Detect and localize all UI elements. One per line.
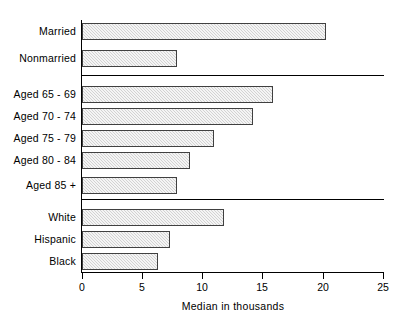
x-tick-mark — [262, 273, 263, 279]
bar — [82, 209, 224, 226]
x-tick-label: 10 — [182, 281, 222, 294]
bar — [82, 177, 177, 194]
x-tick-mark — [323, 273, 324, 279]
bar-label: Aged 85 + — [0, 177, 76, 194]
bar-row: Nonmarried — [82, 50, 383, 67]
x-tick-label: 25 — [363, 281, 403, 294]
bar — [82, 108, 253, 125]
bar — [82, 231, 170, 248]
bar — [82, 253, 158, 270]
bar — [82, 50, 177, 67]
x-tick-mark — [383, 273, 384, 279]
x-axis-line — [82, 272, 384, 273]
bar-chart: MarriedNonmarriedAged 65 - 69Aged 70 - 7… — [0, 0, 418, 322]
x-tick-label: 5 — [122, 281, 162, 294]
bar — [82, 86, 273, 103]
x-tick-label: 15 — [242, 281, 282, 294]
bar-row: Aged 80 - 84 — [82, 152, 383, 169]
bar-label: Aged 75 - 79 — [0, 130, 76, 147]
x-tick-mark — [142, 273, 143, 279]
bar-row: White — [82, 209, 383, 226]
bar-row: Married — [82, 23, 383, 40]
bar — [82, 152, 190, 169]
bar-label: White — [0, 209, 76, 226]
bar-label: Nonmarried — [0, 50, 76, 67]
bar-row: Aged 65 - 69 — [82, 86, 383, 103]
bar-label: Married — [0, 23, 76, 40]
group-separator-line — [82, 75, 384, 76]
plot-area: MarriedNonmarriedAged 65 - 69Aged 70 - 7… — [82, 20, 383, 272]
bar-row: Black — [82, 253, 383, 270]
bar-label: Aged 70 - 74 — [0, 108, 76, 125]
bar-label: Black — [0, 253, 76, 270]
bar-row: Aged 70 - 74 — [82, 108, 383, 125]
x-tick-mark — [82, 273, 83, 279]
bar-row: Aged 85 + — [82, 177, 383, 194]
bar — [82, 130, 214, 147]
x-tick-label: 0 — [62, 281, 102, 294]
bar-label: Aged 80 - 84 — [0, 152, 76, 169]
bar-label: Aged 65 - 69 — [0, 86, 76, 103]
bar-row: Aged 75 - 79 — [82, 130, 383, 147]
bar-label: Hispanic — [0, 231, 76, 248]
group-separator-line — [82, 199, 384, 200]
bar — [82, 23, 326, 40]
bar-row: Hispanic — [82, 231, 383, 248]
x-tick-label: 20 — [303, 281, 343, 294]
x-tick-mark — [202, 273, 203, 279]
x-axis-title: Median in thousands — [82, 300, 384, 312]
